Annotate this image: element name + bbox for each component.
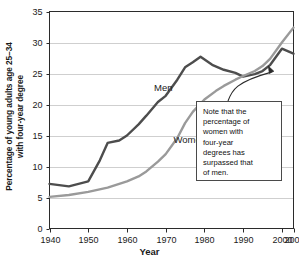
x-axis-title: Year (0, 246, 299, 257)
series-label-men: Men (154, 82, 172, 93)
x-tick-label: 1940 (37, 235, 65, 245)
y-tick-label: 0 (21, 224, 43, 234)
y-tick-label: 35 (21, 7, 43, 17)
y-tick-label: 15 (21, 131, 43, 141)
y-tick-label: 20 (21, 100, 43, 110)
x-tick-label: 1990 (230, 235, 258, 245)
y-tick-label: 5 (21, 193, 43, 203)
crossover-note-line: four-year (203, 138, 276, 148)
y-axis-title-line-1: Percentage of young adults age 25–34 (4, 42, 15, 191)
x-tick-label: 1960 (114, 235, 142, 245)
crossover-note-line: surpassed that (203, 158, 276, 168)
x-tick-label: 2003 (281, 235, 300, 245)
x-tick-marks (51, 229, 295, 233)
x-tick-label: 1980 (191, 235, 219, 245)
crossover-note-line: percentage of (203, 117, 276, 127)
y-tick-label: 10 (21, 162, 43, 172)
x-tick-label: 1970 (153, 235, 181, 245)
crossover-note-line: Note that the (203, 107, 276, 117)
crossover-note-line: of men. (203, 168, 276, 178)
crossover-note-box: Note that thepercentage ofwomen withfour… (196, 101, 282, 181)
y-tick-label: 25 (21, 69, 43, 79)
x-tick-label: 1950 (75, 235, 103, 245)
annotation-arrow (228, 66, 274, 101)
chart-figure: Percentage of young adults age 25–34 wit… (0, 0, 299, 261)
crossover-note-line: degrees has (203, 148, 276, 158)
y-tick-label: 30 (21, 38, 43, 48)
crossover-note-line: women with (203, 127, 276, 137)
